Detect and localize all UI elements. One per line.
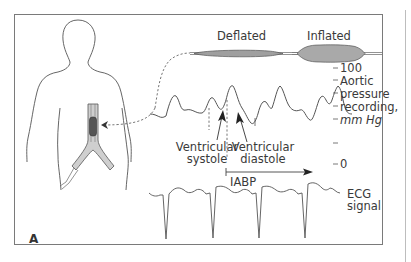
deflated-balloon-icon (190, 50, 302, 57)
aortic-label-line3: recording, (340, 101, 398, 113)
dashed-connector-balloon (155, 53, 190, 108)
aortic-scale-ticks (333, 68, 338, 164)
panel-label: A (29, 232, 38, 246)
dashed-connector-aorta (103, 108, 155, 125)
diastole-label-line2: diastole (228, 153, 298, 165)
ecg-wave (149, 183, 340, 239)
scale-top-value: 100 (340, 62, 362, 74)
iabp-label: IABP (230, 176, 256, 188)
arrow-diastole-icon (236, 112, 247, 142)
scale-bottom-value: 0 (340, 158, 347, 170)
aortic-label-line1: Aortic (340, 75, 373, 87)
inflated-balloon-icon (292, 45, 383, 62)
aortic-pressure-wave (150, 86, 352, 124)
arrowhead-aorta-icon (101, 121, 108, 129)
deflated-label: Deflated (217, 30, 266, 42)
aortic-label-units: mm Hg (340, 114, 382, 126)
ecg-label-line2: signal (347, 200, 381, 212)
inflated-label: Inflated (307, 30, 351, 42)
arrow-systole-icon (217, 110, 226, 140)
aorta-catheter-icon (60, 104, 114, 189)
aortic-label-line2: pressure (340, 88, 390, 100)
